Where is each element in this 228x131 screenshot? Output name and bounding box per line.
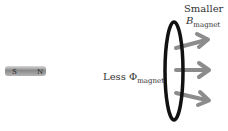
arrow-icon <box>176 63 209 77</box>
magnet-north-label: N <box>37 68 43 76</box>
phi-subscript: magnet <box>137 77 164 85</box>
label-smaller: Smaller <box>184 3 223 14</box>
magnet-south-label: S <box>12 68 17 76</box>
b-subscript: magnet <box>193 21 220 29</box>
bar-magnet-icon: S N <box>5 66 46 76</box>
label-less-phi-magnet: Less Φmagnet <box>103 71 164 85</box>
diagram-canvas: S N Smaller Bmagnet Less Φmagnet <box>0 0 228 131</box>
phi-symbol: Φ <box>129 71 137 82</box>
less-word: Less <box>103 71 126 82</box>
label-b-magnet: Bmagnet <box>186 15 220 29</box>
